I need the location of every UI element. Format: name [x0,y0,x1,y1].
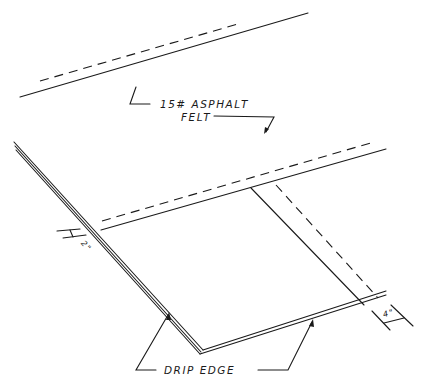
lower-felt-course [101,142,386,305]
dim-left-arrow-line [70,230,73,237]
upper-felt-overlap-dashed-line [40,24,238,81]
lower-felt-top-edge-line [101,149,386,230]
dimension-right-label: 4" [382,307,396,319]
dim-left-tick-top [57,229,80,231]
dimension-2in: 2" [57,229,94,254]
rake-edge-line-3 [16,150,200,354]
felt-end-lap-dashed-line [276,185,378,298]
dimension-4in: 4" [372,305,413,330]
dim-right-arrow-line [384,318,404,323]
roof-drip-edge-diagram: 15# ASPHALT FELT 2" 4" DRIP E [0,0,445,388]
rake-edge-line-2 [15,146,201,352]
eave-drip-edge [200,291,386,354]
felt-end-lap-line [251,188,364,305]
dimension-left-label: 2" [79,239,94,254]
felt-callout: 15# ASPHALT FELT [130,87,274,134]
rake-edge-line-1 [14,142,203,350]
felt-label-line1: 15# ASPHALT [160,98,249,110]
upper-felt-course [20,13,308,97]
drip-edge-label: DRIP EDGE [164,364,235,376]
drip-edge-callout: DRIP EDGE [136,312,314,376]
dim-left-tick-bottom [63,235,86,238]
drip-edge-arrowhead-right-icon [309,319,314,327]
drip-edge-leader-left [136,315,168,370]
felt-label-line2: FELT [181,111,211,123]
lower-felt-overlap-dashed-line [102,142,374,221]
upper-felt-edge-line [20,13,308,97]
felt-marker-icon [130,87,150,104]
eave-edge-line-2 [200,295,386,354]
rake-drip-edge [14,142,203,354]
